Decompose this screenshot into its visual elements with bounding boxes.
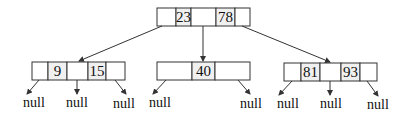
null-label: null — [149, 95, 171, 110]
middle-key-1: 40 — [196, 63, 211, 79]
pointer-cell — [106, 62, 125, 80]
null-label: null — [113, 96, 135, 111]
null-label: null — [240, 96, 262, 111]
right-key-2: 93 — [343, 64, 358, 80]
pointer-cell — [284, 63, 301, 81]
pointer-cell — [191, 8, 216, 26]
left-key-2: 15 — [90, 63, 105, 79]
null-label: null — [320, 96, 342, 111]
pointer-cell — [157, 8, 176, 26]
null-label: null — [66, 95, 88, 110]
null-label: null — [367, 97, 389, 112]
pointer-cell — [320, 63, 341, 81]
left-key-1: 9 — [54, 63, 62, 79]
left-child-node: 9 15 — [32, 62, 125, 80]
pointer-cell — [215, 62, 250, 80]
edge-middle-null-1 — [153, 80, 166, 94]
right-child-node: 81 93 — [284, 63, 377, 81]
null-label: null — [277, 96, 299, 111]
root-node: 23 78 — [157, 8, 250, 26]
b-tree-diagram: 23 78 9 15 null null null 40 null null 8… — [0, 0, 410, 120]
edge-root-left — [79, 26, 162, 61]
edge-left-null-1 — [27, 80, 39, 94]
pointer-cell — [67, 62, 88, 80]
root-key-2: 78 — [218, 9, 233, 25]
null-label: null — [23, 95, 45, 110]
root-key-1: 23 — [176, 9, 191, 25]
right-key-1: 81 — [303, 64, 318, 80]
edge-left-null-3 — [115, 80, 126, 94]
pointer-cell — [235, 8, 250, 26]
pointer-cell — [32, 62, 48, 80]
pointer-cell — [157, 62, 192, 80]
edge-right-null-3 — [367, 81, 378, 96]
pointer-cell — [360, 63, 377, 81]
edge-middle-null-2 — [238, 80, 250, 94]
edge-right-null-1 — [279, 81, 292, 95]
middle-child-node: 40 — [157, 62, 250, 80]
edge-root-right — [242, 26, 330, 62]
